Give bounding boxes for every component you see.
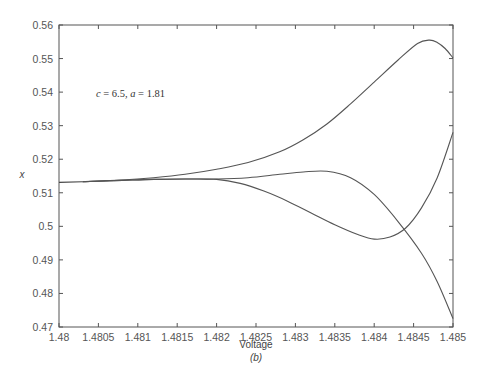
x-tick-label: 1.484: [361, 331, 387, 343]
y-tick-label: 0.48: [33, 287, 54, 299]
y-tick-label: 0.53: [33, 120, 54, 132]
y-tick-label: 0.54: [33, 86, 54, 98]
x-tick-label: 1.481: [125, 331, 151, 343]
y-tick-label: 0.55: [33, 53, 54, 65]
x-tick-label: 1.485: [440, 331, 466, 343]
bifurcation-chart: 1.481.48051.4811.48151.4821.48251.4831.4…: [0, 0, 488, 383]
y-tick-label: 0.56: [33, 19, 54, 31]
y-tick-label: 0.49: [33, 254, 54, 266]
x-tick-label: 1.482: [203, 331, 229, 343]
y-tick-label: 0.47: [33, 321, 54, 333]
y-axis-ticks: 0.470.480.490.50.510.520.530.540.550.56: [33, 19, 453, 333]
series-line-3: [83, 132, 453, 239]
y-tick-label: 0.5: [38, 220, 53, 232]
x-tick-label: 1.4815: [161, 331, 193, 343]
y-tick-label: 0.51: [33, 187, 54, 199]
panel-label: (b): [250, 352, 262, 363]
y-axis-label: x: [19, 169, 26, 180]
x-tick-label: 1.4835: [319, 331, 351, 343]
x-axis-ticks: 1.481.48051.4811.48151.4821.48251.4831.4…: [49, 25, 467, 343]
y-tick-label: 0.52: [33, 153, 54, 165]
parameter-annotation: c = 6.5, a = 1.81: [96, 88, 165, 99]
series-line-1: [83, 40, 453, 182]
x-tick-label: 1.4805: [82, 331, 114, 343]
plot-frame: [59, 25, 453, 327]
x-tick-label: 1.483: [282, 331, 308, 343]
x-tick-label: 1.4845: [398, 331, 430, 343]
x-axis-label: Voltage: [239, 339, 273, 350]
curves: [59, 40, 453, 319]
